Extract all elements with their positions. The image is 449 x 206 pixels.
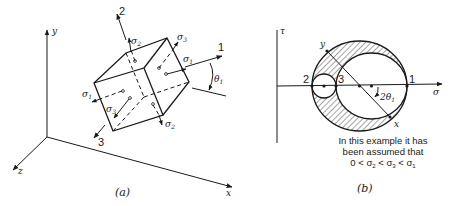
point-3-label: 3 bbox=[338, 73, 344, 85]
axis-1-label: 1 bbox=[218, 41, 224, 53]
panel-b: τ σ y x 2 3 1 2θ1 In this example it bbox=[277, 26, 442, 195]
stress-diagram-figure: y z x 2 1 3 θ1 bbox=[0, 0, 449, 206]
sigma3-top-arrow bbox=[172, 42, 178, 51]
point-1-label: 1 bbox=[409, 73, 415, 85]
point-x bbox=[388, 115, 391, 118]
point-2-label: 2 bbox=[303, 73, 309, 85]
panel-b-caption: (b) bbox=[357, 182, 373, 195]
stress-cube bbox=[94, 38, 189, 131]
sigma3-front-label: σ3 bbox=[106, 104, 116, 115]
sigma3-front-arrow bbox=[114, 99, 129, 118]
sigma1-left-arrow bbox=[92, 99, 100, 102]
panel-a: y z x 2 1 3 θ1 bbox=[13, 5, 232, 199]
sigma1-right-label: σ1 bbox=[183, 54, 193, 65]
tau-axis-label: τ bbox=[280, 26, 286, 36]
figure-canvas: y z x 2 1 3 θ1 bbox=[0, 0, 449, 206]
axis-2-label: 2 bbox=[119, 5, 125, 17]
y-axis-label: y bbox=[51, 26, 58, 36]
axis-3-label: 3 bbox=[98, 136, 104, 148]
point-x-label: x bbox=[394, 119, 399, 129]
point-y bbox=[325, 49, 328, 52]
note-line-2: been assumed that bbox=[343, 146, 424, 157]
x-axis bbox=[47, 137, 232, 187]
axis-2 bbox=[117, 14, 126, 40]
point-y-label: y bbox=[319, 39, 326, 49]
note-line-1: In this example it has bbox=[338, 135, 427, 146]
z-axis-label: z bbox=[17, 166, 23, 176]
sigma1-left-label: σ1 bbox=[82, 89, 92, 100]
global-axes: y z x bbox=[13, 26, 232, 198]
note-line-3: 0 < σ2 < σ3 < σ1 bbox=[350, 157, 416, 169]
point-2 bbox=[310, 84, 313, 87]
sigma2-bottom-arrow bbox=[159, 115, 162, 125]
theta-arc bbox=[209, 63, 213, 90]
center-small bbox=[322, 84, 325, 87]
theta-1-label: θ1 bbox=[214, 74, 223, 85]
center-medium bbox=[370, 84, 373, 87]
sigma-axis-label: σ bbox=[433, 87, 440, 97]
sigma3-top-label: σ3 bbox=[177, 32, 187, 43]
sigma2-top-label: σ2 bbox=[131, 36, 141, 47]
x-axis-label: x bbox=[226, 188, 231, 198]
center-outer bbox=[358, 84, 361, 87]
sigma2-bottom-label: σ2 bbox=[165, 119, 175, 130]
panel-a-caption: (a) bbox=[115, 186, 130, 199]
